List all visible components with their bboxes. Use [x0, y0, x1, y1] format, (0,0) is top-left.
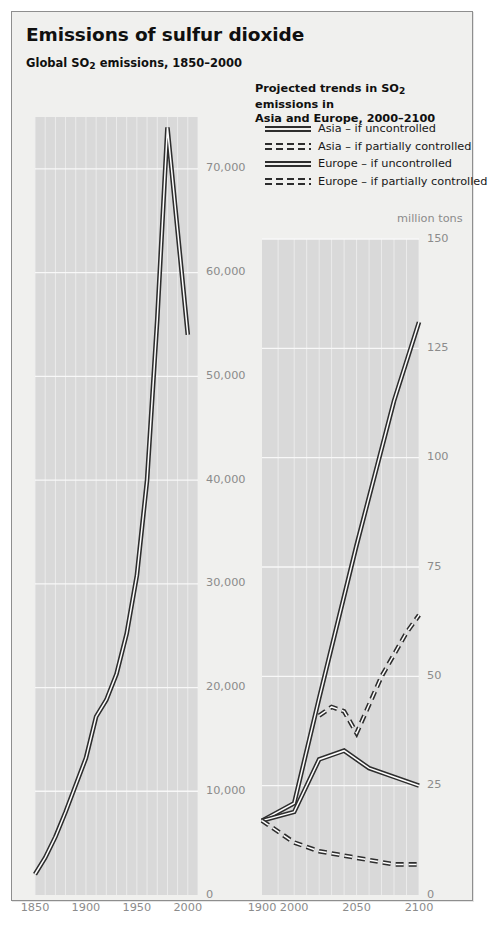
y-tick-label: 10,000: [206, 784, 246, 797]
y-tick-label: 40,000: [206, 473, 246, 486]
x-tick-label: 1850: [10, 901, 60, 914]
right-chart-unit-label: million tons: [397, 212, 463, 225]
y-tick-label: 50,000: [206, 369, 246, 382]
y-tick-label: 0: [206, 888, 213, 901]
y-tick-label: 125: [427, 341, 449, 354]
y-tick-label: 25: [427, 778, 441, 791]
x-tick-label: 1950: [112, 901, 162, 914]
y-tick-label: 150: [427, 232, 449, 245]
y-tick-label: 20,000: [206, 680, 246, 693]
x-tick-label: 1900: [61, 901, 111, 914]
chart-page: Emissions of sulfur dioxide Global SO2 e…: [0, 0, 496, 936]
y-tick-label: 70,000: [206, 161, 246, 174]
right-chart: million tons 0255075100125150 1900200020…: [252, 12, 474, 902]
x-tick-label: 2100: [394, 901, 444, 914]
chart-card: Emissions of sulfur dioxide Global SO2 e…: [11, 11, 473, 901]
y-tick-label: 50: [427, 669, 441, 682]
x-tick-label: 2050: [332, 901, 382, 914]
x-tick-label: 2000: [269, 901, 319, 914]
y-tick-label: 30,000: [206, 576, 246, 589]
left-chart: 010,00020,00030,00040,00050,00060,00070,…: [12, 12, 252, 902]
y-tick-label: 0: [427, 888, 434, 901]
y-tick-label: 100: [427, 450, 449, 463]
y-tick-label: 75: [427, 560, 441, 573]
x-tick-label: 2000: [163, 901, 213, 914]
y-tick-label: 60,000: [206, 265, 246, 278]
left-chart-canvas: [12, 12, 252, 902]
